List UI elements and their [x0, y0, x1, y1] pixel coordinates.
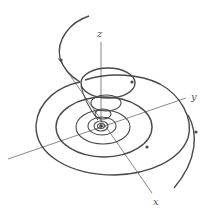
spiral-diagram: z y x: [0, 0, 217, 215]
x-axis-label: x: [153, 196, 159, 207]
outer-arc-lower: [174, 115, 194, 188]
diagram-svg: [0, 0, 217, 215]
direction-marker-icon: [59, 58, 62, 61]
direction-marker-icon: [130, 80, 133, 83]
direction-marker-icon: [145, 145, 148, 148]
y-axis: [8, 98, 186, 159]
helix-loop-1: [81, 68, 135, 98]
direction-marker-icon: [194, 130, 197, 133]
spiral-center: [99, 124, 103, 128]
large-spiral-loop: [36, 75, 189, 175]
outer-arc-upper: [59, 16, 89, 82]
spiral-ring-2: [76, 110, 130, 144]
z-axis-label: z: [97, 28, 102, 39]
y-axis-label: y: [191, 91, 197, 102]
